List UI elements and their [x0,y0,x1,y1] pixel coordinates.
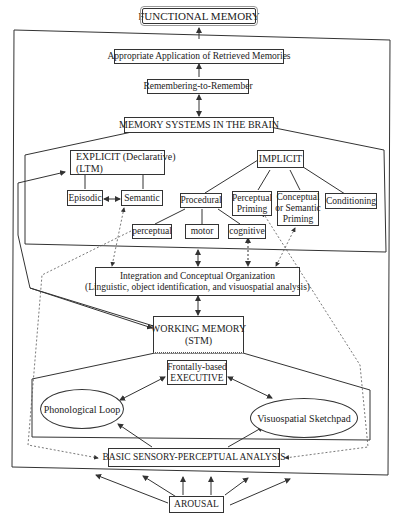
remembering-node: Remembering-to-Remember [147,79,249,94]
procedural-node: Procedural [180,193,222,208]
conceptual-priming-text-3: Priming [283,214,314,225]
perceptual-priming-node: Perceptual Priming [232,191,272,216]
stm-text: (STM) [185,335,212,347]
working-memory-text: WORKING MEMORY [151,323,246,335]
functional-memory-title: FUNCTIONAL MEMORY [142,8,256,24]
semantic-text: Semantic [124,193,159,204]
perceptual-priming-text-2: Priming [237,204,268,215]
procedural-text: Procedural [180,195,221,206]
phonological-loop-text: Phonological Loop [44,404,120,415]
visuospatial-sketchpad-text: Visuospatial Sketchpad [257,413,351,424]
conceptual-priming-node: Conceptual or Semantic Priming [277,191,319,226]
phonological-loop-node: Phonological Loop [40,389,124,429]
explicit-text: EXPLICIT (Declarative) [76,151,176,163]
ltm-text: (LTM) [76,163,103,175]
conditioning-node: Conditioning [325,193,377,209]
appropriate-application-node: Appropriate Application of Retrieved Mem… [114,49,284,64]
conceptual-priming-text-1: Conceptual [276,192,319,203]
visuospatial-sketchpad-node: Visuospatial Sketchpad [250,398,358,438]
integration-text-2: (Linguistic, object identification, and … [85,282,310,293]
arousal-node: AROUSAL [169,496,224,513]
integration-node: Integration and Conceptual Organization … [95,267,300,296]
cognitive-node: cognitive [228,224,266,239]
title-text: FUNCTIONAL MEMORY [138,10,260,23]
working-memory-node: WORKING MEMORY (STM) [153,316,244,353]
executive-text-2: EXECUTIVE [170,373,223,384]
integration-text-1: Integration and Conceptual Organization [120,271,275,282]
executive-text-1: Frontally-based [167,362,227,373]
perceptual-text: perceptual [132,226,172,237]
basic-sensory-text: BASIC SENSORY-PERCEPTUAL ANALYSIS [103,452,286,463]
motor-node: motor [185,224,219,239]
perceptual-node: perceptual [132,224,172,239]
episodic-node: Episodic [67,190,103,206]
cognitive-text: cognitive [229,226,264,237]
memory-systems-node: MEMORY SYSTEMS IN THE BRAIN [124,117,274,133]
implicit-text: IMPLICIT [259,153,302,165]
episodic-text: Episodic [68,193,101,204]
implicit-node: IMPLICIT [257,150,304,168]
semantic-node: Semantic [121,190,163,206]
explicit-node: EXPLICIT (Declarative) (LTM) [70,150,165,175]
basic-sensory-node: BASIC SENSORY-PERCEPTUAL ANALYSIS [108,448,280,467]
conditioning-text: Conditioning [326,196,376,207]
perceptual-priming-text-1: Perceptual [232,193,272,204]
motor-text: motor [191,226,214,237]
arousal-text: AROUSAL [174,499,219,510]
remembering-text: Remembering-to-Remember [143,81,252,92]
conceptual-priming-text-2: or Semantic [275,203,321,214]
appropriate-application-text: Appropriate Application of Retrieved Mem… [107,51,290,62]
executive-node: Frontally-based EXECUTIVE [167,360,227,385]
memory-systems-text: MEMORY SYSTEMS IN THE BRAIN [119,119,279,131]
